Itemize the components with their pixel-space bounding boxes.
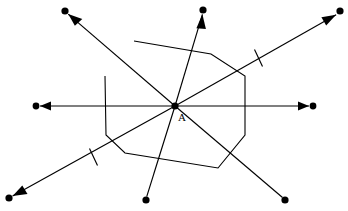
ray-left [33,102,175,111]
ray-right-arrowhead [298,102,309,111]
ray-upper-right-arrowhead [321,15,336,26]
ray-upper-left [61,7,175,106]
ray-up-endpoint-dot [199,6,206,13]
ray-right-endpoint-dot [310,103,317,110]
ray-upper-left-endpoint-dot [61,7,68,14]
center-point-dot [171,102,178,109]
figure-canvas: A [0,0,348,211]
ray-lower-right-line [175,106,283,198]
ray-lower-right-endpoint-dot [281,196,288,203]
ray-down [142,106,175,204]
ray-left-endpoint-dot [33,103,40,110]
ray-lower-left-arrowhead [13,186,28,196]
geometry-figure: A [0,0,348,211]
ray-lower-right [175,106,289,204]
ray-upper-left-line [68,14,175,106]
center-point-label: A [178,111,186,123]
ray-down-endpoint-dot [142,196,149,203]
ray-right [175,102,316,111]
ray-lower-left-endpoint-dot [5,194,12,201]
ray-upper-right-tick-icon [255,50,263,67]
ray-left-arrowhead [40,102,51,111]
ray-upper-right-endpoint-dot [336,7,343,14]
